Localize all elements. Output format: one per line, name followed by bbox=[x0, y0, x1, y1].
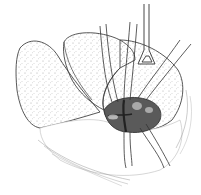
surgical-illustration bbox=[0, 0, 201, 195]
